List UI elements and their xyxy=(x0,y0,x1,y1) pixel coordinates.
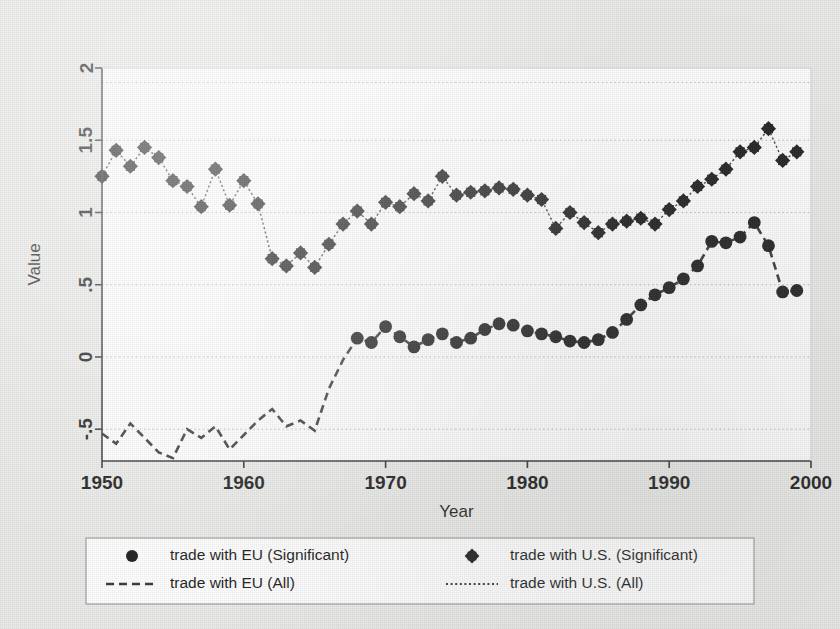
data-point-eu xyxy=(762,239,775,252)
data-point-us-core xyxy=(650,219,659,228)
data-point-us-core xyxy=(154,153,163,162)
data-point-us-core xyxy=(778,156,787,165)
data-point-eu xyxy=(535,327,548,340)
data-point-eu xyxy=(422,333,435,346)
data-point-us-core xyxy=(565,208,574,217)
data-point-us-core xyxy=(395,202,404,211)
data-point-us-core xyxy=(679,196,688,205)
data-point-us-core xyxy=(721,165,730,174)
data-point-eu xyxy=(365,336,378,349)
data-point-eu xyxy=(379,320,392,333)
x-tick-label-3: 1980 xyxy=(506,472,548,493)
data-point-us-core xyxy=(253,199,262,208)
data-point-eu xyxy=(408,340,421,353)
data-point-us-core xyxy=(750,143,759,152)
data-point-eu xyxy=(478,323,491,336)
data-point-us-core xyxy=(537,195,546,204)
data-point-us-core xyxy=(282,261,291,270)
data-point-us-core xyxy=(480,186,489,195)
data-point-eu xyxy=(691,260,704,273)
data-point-us-core xyxy=(551,224,560,233)
data-point-us-core xyxy=(622,217,631,226)
y-axis-title-text: Value xyxy=(25,243,44,285)
y-tick-label-1: 0 xyxy=(76,352,97,363)
y-tick-label-2: .5 xyxy=(76,276,97,292)
legend-circle-marker-icon xyxy=(126,550,138,562)
y-tick-label-3: 1 xyxy=(76,207,97,218)
data-point-us-core xyxy=(438,172,447,181)
x-tick-label-5: 2000 xyxy=(790,472,832,493)
data-point-us-core xyxy=(381,198,390,207)
legend-diamond-core-icon xyxy=(468,552,477,561)
data-point-us-core xyxy=(197,202,206,211)
data-point-eu xyxy=(578,336,591,349)
data-point-us-core xyxy=(225,201,234,210)
data-point-us-core xyxy=(580,218,589,227)
data-point-us-core xyxy=(452,191,461,200)
data-point-eu xyxy=(351,332,364,345)
legend-label-2: trade with EU (All) xyxy=(170,574,295,591)
data-point-eu xyxy=(705,235,718,248)
data-point-us-core xyxy=(296,248,305,257)
data-point-us-core xyxy=(310,263,319,272)
data-point-eu xyxy=(493,317,506,330)
chart-figure: -.50.511.52195019601970198019902000YearV… xyxy=(0,0,840,629)
data-point-us-core xyxy=(764,124,773,133)
data-point-us-core xyxy=(211,165,220,174)
y-tick-label-0: -.5 xyxy=(76,418,97,441)
data-point-us-core xyxy=(112,146,121,155)
data-point-us-core xyxy=(636,214,645,223)
data-point-eu xyxy=(564,335,577,348)
data-point-us-core xyxy=(353,206,362,215)
data-point-us-core xyxy=(608,219,617,228)
data-point-eu xyxy=(521,325,534,338)
data-point-eu xyxy=(620,313,633,326)
x-tick-label-2: 1970 xyxy=(364,472,406,493)
y-tick-label-4: 1.5 xyxy=(76,127,97,154)
x-tick-label-4: 1990 xyxy=(648,472,690,493)
data-point-us-core xyxy=(140,143,149,152)
data-point-us-core xyxy=(338,219,347,228)
chart-svg: -.50.511.52195019601970198019902000YearV… xyxy=(0,0,840,629)
data-point-eu xyxy=(606,326,619,339)
data-point-us-core xyxy=(424,196,433,205)
data-point-us-core xyxy=(367,219,376,228)
legend-label-1: trade with U.S. (Significant) xyxy=(510,546,698,563)
data-point-eu xyxy=(592,333,605,346)
data-point-us-core xyxy=(523,191,532,200)
x-axis-title-text: Year xyxy=(439,502,474,521)
data-point-eu xyxy=(790,284,803,297)
data-point-eu xyxy=(393,330,406,343)
data-point-us-core xyxy=(665,205,674,214)
y-tick-label-5: 2 xyxy=(76,63,97,74)
data-point-us-core xyxy=(594,228,603,237)
data-point-eu xyxy=(663,281,676,294)
data-point-us-core xyxy=(126,162,135,171)
data-point-eu xyxy=(748,216,761,229)
legend-label-3: trade with U.S. (All) xyxy=(510,574,644,591)
data-point-us-core xyxy=(168,176,177,185)
data-point-eu xyxy=(549,330,562,343)
data-point-us-core xyxy=(268,254,277,263)
data-point-us-core xyxy=(494,183,503,192)
data-point-us-core xyxy=(182,182,191,191)
data-point-eu xyxy=(436,327,449,340)
data-point-us-core xyxy=(466,188,475,197)
x-tick-label-0: 1950 xyxy=(81,472,123,493)
data-point-eu xyxy=(649,288,662,301)
data-point-eu xyxy=(464,332,477,345)
plot-area xyxy=(102,68,811,461)
legend-label-0: trade with EU (Significant) xyxy=(170,546,349,563)
data-point-eu xyxy=(720,236,733,249)
data-point-us-core xyxy=(509,185,518,194)
data-point-eu xyxy=(734,231,747,244)
data-point-eu xyxy=(776,286,789,299)
data-point-us-core xyxy=(693,182,702,191)
x-tick-label-1: 1960 xyxy=(223,472,265,493)
data-point-us-core xyxy=(409,189,418,198)
data-point-us-core xyxy=(792,147,801,156)
data-point-us-core xyxy=(736,147,745,156)
data-point-us-core xyxy=(239,176,248,185)
data-point-us-core xyxy=(324,240,333,249)
data-point-eu xyxy=(634,299,647,312)
